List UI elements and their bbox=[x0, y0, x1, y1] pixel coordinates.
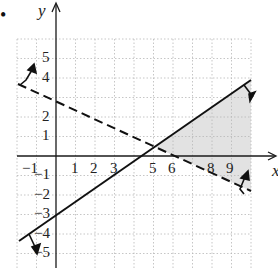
y-axis-label: y bbox=[36, 1, 46, 20]
y-tick-label: −3 bbox=[34, 205, 50, 221]
arrow-head-icon bbox=[28, 64, 36, 73]
x-tick-label: 1 bbox=[71, 160, 79, 176]
x-axis-label: x bbox=[271, 161, 278, 180]
y-tick-label: −1 bbox=[34, 166, 50, 182]
list-bullet: • bbox=[0, 5, 6, 25]
y-tick-label: 5 bbox=[42, 49, 50, 65]
x-tick-label: 6 bbox=[168, 160, 176, 176]
y-tick-label: 2 bbox=[42, 108, 50, 124]
arrow-head-icon bbox=[249, 92, 255, 101]
y-tick-label: −2 bbox=[34, 186, 50, 202]
y-tick-label: 1 bbox=[42, 127, 50, 143]
x-tick-label: 2 bbox=[90, 160, 98, 176]
x-tick-label: 5 bbox=[149, 160, 157, 176]
x-tick-label: 9 bbox=[226, 160, 234, 176]
arrow-up-icon bbox=[20, 70, 32, 85]
y-tick-label: −4 bbox=[34, 225, 50, 241]
y-tick-label: 4 bbox=[42, 69, 50, 85]
inequality-graph: • y x −11235689 5421−1−2−3−4−5 bbox=[0, 0, 278, 268]
